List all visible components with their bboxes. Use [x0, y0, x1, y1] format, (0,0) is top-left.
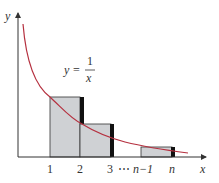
- rectangle-2: [80, 124, 114, 157]
- function-label: y = 1 x: [63, 54, 95, 85]
- svg-text:x: x: [85, 71, 92, 85]
- svg-text:y: y: [63, 63, 70, 77]
- x-axis-label: x: [199, 162, 206, 176]
- excess-bar-1: [80, 97, 84, 124]
- tick-label-2: 2: [77, 162, 83, 176]
- rectangle-1: [50, 97, 84, 157]
- riemann-sum-diagram: y x y = 1 x 1 2 3 ⋯ n−1 n: [0, 0, 219, 183]
- tick-label-n: n: [169, 162, 175, 176]
- svg-text:1: 1: [87, 54, 93, 68]
- tick-label-ellipsis: ⋯: [118, 162, 130, 176]
- tick-label-1: 1: [47, 162, 53, 176]
- tick-label-n-minus-1: n−1: [133, 162, 153, 176]
- excess-bar-2: [110, 124, 114, 157]
- tick-label-3: 3: [107, 162, 113, 176]
- excess-bar-n: [171, 147, 175, 157]
- y-axis-label: y: [4, 9, 11, 23]
- svg-text:=: =: [73, 63, 80, 77]
